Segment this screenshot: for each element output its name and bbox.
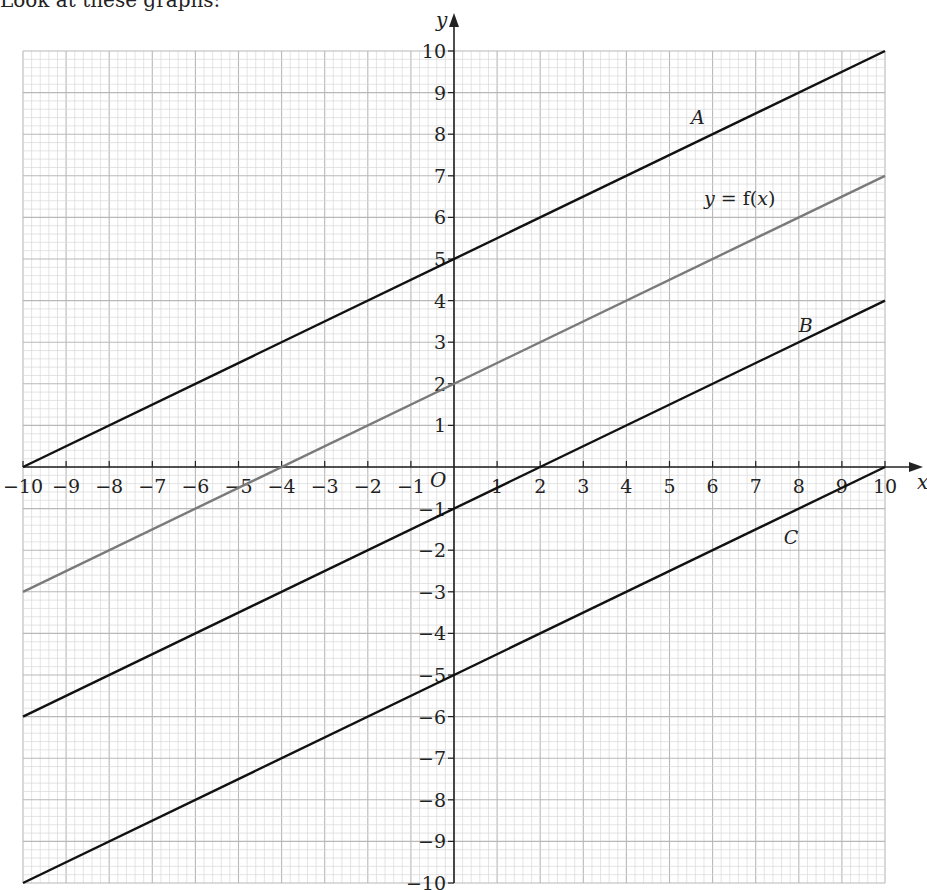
origin-label: O — [430, 468, 446, 492]
line-chart: xyO −10−9−8−7−6−5−4−3−2−112345678910−10−… — [0, 0, 927, 890]
x-axis-label: x — [917, 470, 927, 494]
x-tick-label: 6 — [707, 475, 719, 497]
x-tick-label: −3 — [311, 475, 339, 497]
y-tick-label: 3 — [434, 331, 446, 353]
y-tick-label: −8 — [418, 789, 446, 811]
x-tick-label: 7 — [750, 475, 762, 497]
y-tick-label: −2 — [418, 539, 446, 561]
x-tick-label: −2 — [354, 475, 382, 497]
line-y-f-x-label: y = f(x) — [703, 187, 775, 209]
y-axis-arrow-icon — [449, 13, 459, 27]
y-tick-label: 7 — [434, 165, 446, 187]
x-tick-label: −1 — [397, 475, 425, 497]
y-tick-label: 10 — [422, 40, 446, 62]
x-tick-label: −10 — [3, 475, 43, 497]
x-tick-label: −6 — [181, 475, 209, 497]
x-tick-label: 2 — [534, 475, 546, 497]
y-tick-label: 9 — [434, 82, 446, 104]
y-tick-label: 6 — [434, 206, 446, 228]
y-tick-label: −6 — [418, 706, 446, 728]
y-tick-label: 1 — [434, 414, 446, 436]
x-tick-label: −9 — [52, 475, 80, 497]
x-tick-label: 5 — [663, 475, 675, 497]
line-b-label: B — [798, 314, 813, 336]
y-tick-label: −10 — [406, 872, 446, 890]
x-tick-label: 3 — [577, 475, 589, 497]
line-a-label: A — [689, 106, 705, 128]
axes: xyO — [23, 8, 927, 883]
x-tick-label: −4 — [268, 475, 296, 497]
y-tick-label: −7 — [418, 747, 446, 769]
y-tick-label: 4 — [434, 290, 446, 312]
y-tick-label: 8 — [434, 123, 446, 145]
x-tick-label: 10 — [873, 475, 897, 497]
line-c-label: C — [784, 526, 799, 548]
x-tick-label: 4 — [620, 475, 632, 497]
y-tick-label: −3 — [418, 581, 446, 603]
x-tick-label: 8 — [793, 475, 805, 497]
y-tick-label: −9 — [418, 830, 446, 852]
y-axis-label: y — [435, 8, 448, 32]
x-tick-label: −8 — [95, 475, 123, 497]
y-tick-label: −5 — [418, 664, 446, 686]
y-tick-label: −1 — [418, 498, 446, 520]
x-tick-label: −7 — [138, 475, 166, 497]
y-tick-label: −4 — [418, 622, 446, 644]
